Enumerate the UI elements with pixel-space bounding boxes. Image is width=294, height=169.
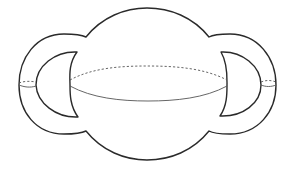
genus-two-surface-diagram: [0, 0, 294, 169]
diagram-svg: [0, 0, 294, 169]
